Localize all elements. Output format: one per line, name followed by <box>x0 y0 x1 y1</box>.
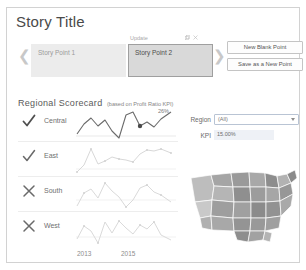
update-label[interactable]: Update <box>130 35 148 41</box>
map-state <box>234 231 250 242</box>
story-point-tab-2-label: Story Point 2 <box>135 49 172 56</box>
check-icon <box>22 149 36 163</box>
map-state <box>248 231 265 242</box>
map-state <box>233 187 251 202</box>
kpi-input-value: 15.00% <box>217 131 236 137</box>
chevron-right-icon[interactable]: ❯ <box>213 47 223 65</box>
region-filter-label: Region <box>185 116 211 123</box>
kpi-filter-label: KPI <box>185 132 211 139</box>
duplicate-icon[interactable] <box>185 35 190 40</box>
map-state <box>266 187 280 202</box>
map-svg <box>187 156 299 246</box>
new-blank-point-button[interactable]: New Blank Point <box>227 41 303 54</box>
region-select-value: (All) <box>218 116 228 122</box>
region-select[interactable]: (All) <box>214 114 299 125</box>
map-state <box>250 187 266 202</box>
map-state <box>211 216 234 231</box>
time-axis: 2013 2015 <box>65 250 185 262</box>
cross-icon <box>22 184 36 198</box>
save-as-new-point-button[interactable]: Save as a New Point <box>227 58 303 71</box>
sparkline-east <box>76 143 176 175</box>
map-state <box>249 172 266 187</box>
page-title: Story Title <box>16 13 85 30</box>
map-state <box>231 172 250 187</box>
story-frame: Story Title ❮ ❯ Story Point 1 Update Sto… <box>6 7 300 263</box>
region-filter: Region (All) <box>185 113 301 125</box>
map-state <box>265 216 281 231</box>
region-name: Central <box>44 117 67 124</box>
map-state <box>266 201 281 218</box>
axis-tick-2013: 2013 <box>77 250 91 257</box>
table-row[interactable]: East <box>18 141 178 177</box>
table-row[interactable]: West <box>18 211 178 246</box>
sparkline-south <box>76 178 176 210</box>
chevron-down-icon <box>291 118 295 121</box>
united-states-map[interactable] <box>187 156 299 246</box>
story-navigator: ❮ ❯ Story Point 1 Update Story Point 2 N… <box>17 35 292 79</box>
chevron-left-icon[interactable]: ❮ <box>18 47 28 65</box>
filter-panel: Region (All) KPI 15.00% <box>185 113 301 145</box>
table-row[interactable]: Central 26% <box>18 106 178 142</box>
map-state <box>265 173 279 188</box>
cross-icon <box>22 219 36 233</box>
axis-tick-2015: 2015 <box>121 250 135 257</box>
scorecard-table: Central 26% East <box>18 106 178 248</box>
story-point-tab-2[interactable]: Story Point 2 <box>128 44 213 77</box>
table-row[interactable]: South <box>18 176 178 212</box>
map-state <box>200 216 212 230</box>
sparkline-west <box>76 213 176 245</box>
map-state <box>195 200 212 218</box>
map-state <box>263 231 272 242</box>
map-state <box>250 218 266 231</box>
kpi-annotation: 26% <box>158 108 169 114</box>
kpi-filter: KPI 15.00% <box>185 129 301 141</box>
map-state <box>251 202 266 218</box>
map-state <box>211 173 233 187</box>
region-name: South <box>44 187 62 194</box>
kpi-input[interactable]: 15.00% <box>214 130 274 140</box>
region-name: East <box>44 152 58 159</box>
story-point-actions: New Blank Point Save as a New Point <box>227 41 303 71</box>
map-state <box>233 202 251 218</box>
map-state <box>233 218 251 231</box>
close-icon[interactable] <box>193 35 198 40</box>
story-point-tab-1[interactable]: Story Point 1 <box>31 44 126 77</box>
map-state <box>191 175 214 202</box>
map-state <box>212 186 234 202</box>
region-name: West <box>44 222 60 229</box>
check-icon <box>22 114 36 128</box>
story-point-tab-actions <box>185 35 198 40</box>
map-state <box>211 200 234 218</box>
story-point-tab-1-label: Story Point 1 <box>38 49 75 56</box>
